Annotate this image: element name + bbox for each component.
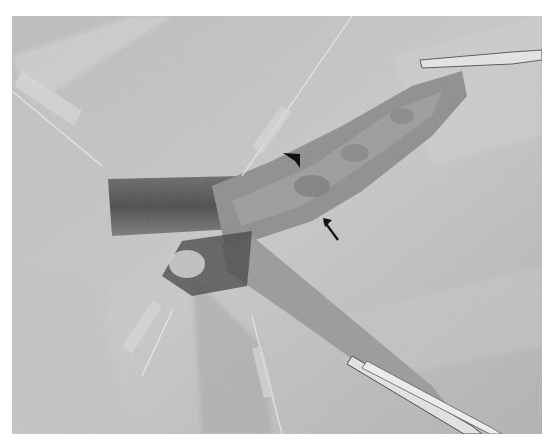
surgical-photograph	[12, 16, 542, 434]
photo-content	[12, 16, 542, 434]
film-grain	[12, 16, 542, 434]
